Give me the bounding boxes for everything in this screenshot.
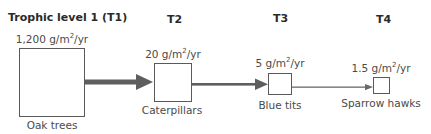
label-blue-tits: Blue tits xyxy=(258,99,301,111)
label-oak-trees: Oak trees xyxy=(27,119,78,131)
energy-flow-arrows xyxy=(0,0,431,134)
label-caterpillars: Caterpillars xyxy=(142,104,202,116)
arrow-t1-t2 xyxy=(85,74,153,90)
arrow-t2-t3 xyxy=(192,79,268,91)
arrow-t3-t4 xyxy=(292,84,373,90)
label-sparrow-hawks: Sparrow hawks xyxy=(341,97,421,109)
